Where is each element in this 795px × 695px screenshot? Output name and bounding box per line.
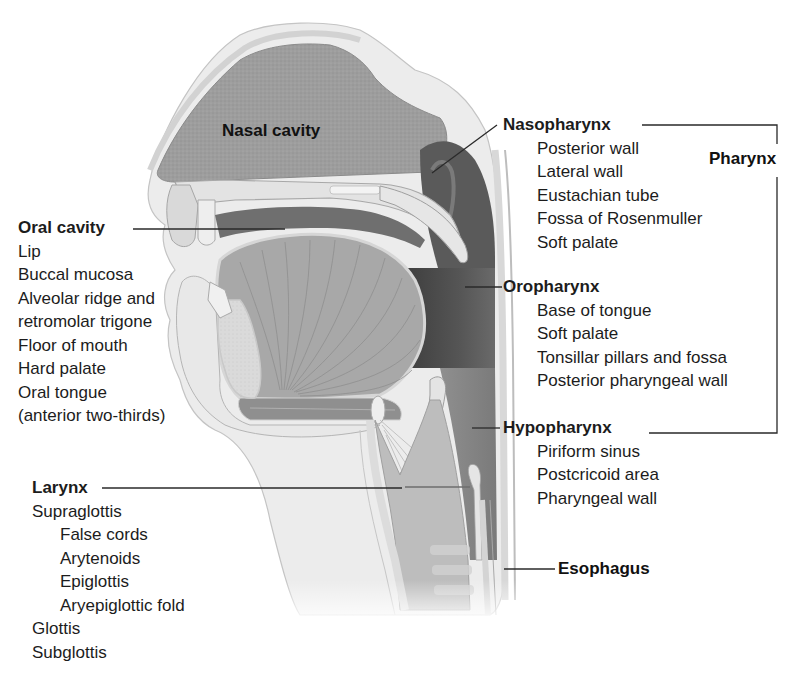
esophagus-label: Esophagus (558, 557, 650, 581)
nasopharynx-item: Posterior wall (537, 137, 702, 161)
nasopharynx-item: Soft palate (537, 231, 702, 255)
nasal-cavity-label: Nasal cavity (222, 119, 320, 143)
upper-lip (167, 185, 198, 247)
anatomy-diagram: Nasal cavity Pharynx Esophagus Oral cavi… (0, 0, 795, 695)
oral-cavity-item: Oral tongue (18, 381, 165, 405)
oral-cavity-item: Lip (18, 240, 165, 264)
oral-cavity-item: Alveolar ridge and (18, 287, 165, 311)
nasopharynx-item: Fossa of Rosenmuller (537, 207, 702, 231)
hypopharynx-item: Postcricoid area (537, 463, 659, 487)
oropharynx-item: Soft palate (537, 322, 728, 346)
nasopharynx-group: Nasopharynx Posterior wall Lateral wall … (503, 113, 702, 254)
hypopharynx-item: Piriform sinus (537, 440, 659, 464)
hyoid-bone (371, 396, 385, 424)
oral-cavity-item: Buccal mucosa (18, 263, 165, 287)
larynx-item: Supraglottis (32, 500, 185, 524)
larynx-heading: Larynx (32, 476, 185, 500)
hypopharynx-item: Pharyngeal wall (537, 487, 659, 511)
larynx-subitem: Arytenoids (32, 547, 185, 571)
oral-cavity-group: Oral cavity Lip Buccal mucosa Alveolar r… (18, 216, 165, 428)
nasopharynx-item: Eustachian tube (537, 184, 702, 208)
oral-cavity-item: Hard palate (18, 357, 165, 381)
nasopharynx-heading: Nasopharynx (503, 113, 702, 137)
pharynx-label: Pharynx (709, 147, 776, 171)
oral-cavity-item: retromolar trigone (18, 310, 165, 334)
oropharynx-heading: Oropharynx (503, 275, 728, 299)
hypopharynx-group: Hypopharynx Piriform sinus Postcricoid a… (503, 416, 659, 510)
nasopharynx-item: Lateral wall (537, 160, 702, 184)
larynx-subitem: False cords (32, 523, 185, 547)
oral-cavity-item: Floor of mouth (18, 334, 165, 358)
larynx-group: Larynx Supraglottis False cords Arytenoi… (32, 476, 185, 664)
hypopharynx-heading: Hypopharynx (503, 416, 659, 440)
larynx-subitem: Aryepiglottic fold (32, 594, 185, 618)
oropharynx-item: Posterior pharyngeal wall (537, 369, 728, 393)
oropharynx-item: Base of tongue (537, 299, 728, 323)
oropharynx-item: Tonsillar pillars and fossa (537, 346, 728, 370)
oral-cavity-item: (anterior two-thirds) (18, 404, 165, 428)
oral-cavity-heading: Oral cavity (18, 216, 165, 240)
larynx-subitem: Epiglottis (32, 570, 185, 594)
larynx-item: Subglottis (32, 641, 185, 665)
larynx-item: Glottis (32, 617, 185, 641)
oropharynx-group: Oropharynx Base of tongue Soft palate To… (503, 275, 728, 393)
